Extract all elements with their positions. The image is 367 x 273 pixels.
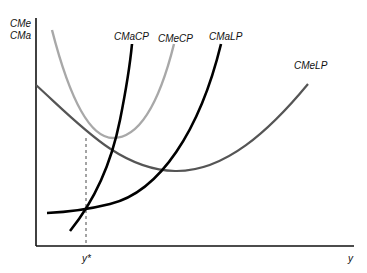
cmecp-curve — [52, 30, 174, 138]
cmacp-label: CMaCP — [114, 31, 149, 42]
y-axis-label-cme: CMe — [10, 18, 32, 29]
x-axis-label: y — [347, 253, 354, 264]
y-star-label: y* — [81, 253, 92, 264]
cmecp-label: CMeCP — [158, 33, 193, 44]
cost-curves-diagram: CMe CMa CMaCP CMeCP CMaLP CMeLP y* y — [0, 0, 367, 273]
cmelp-label: CMeLP — [294, 60, 328, 71]
cmalp-label: CMaLP — [209, 31, 243, 42]
y-axis-label-cma: CMa — [10, 30, 32, 41]
